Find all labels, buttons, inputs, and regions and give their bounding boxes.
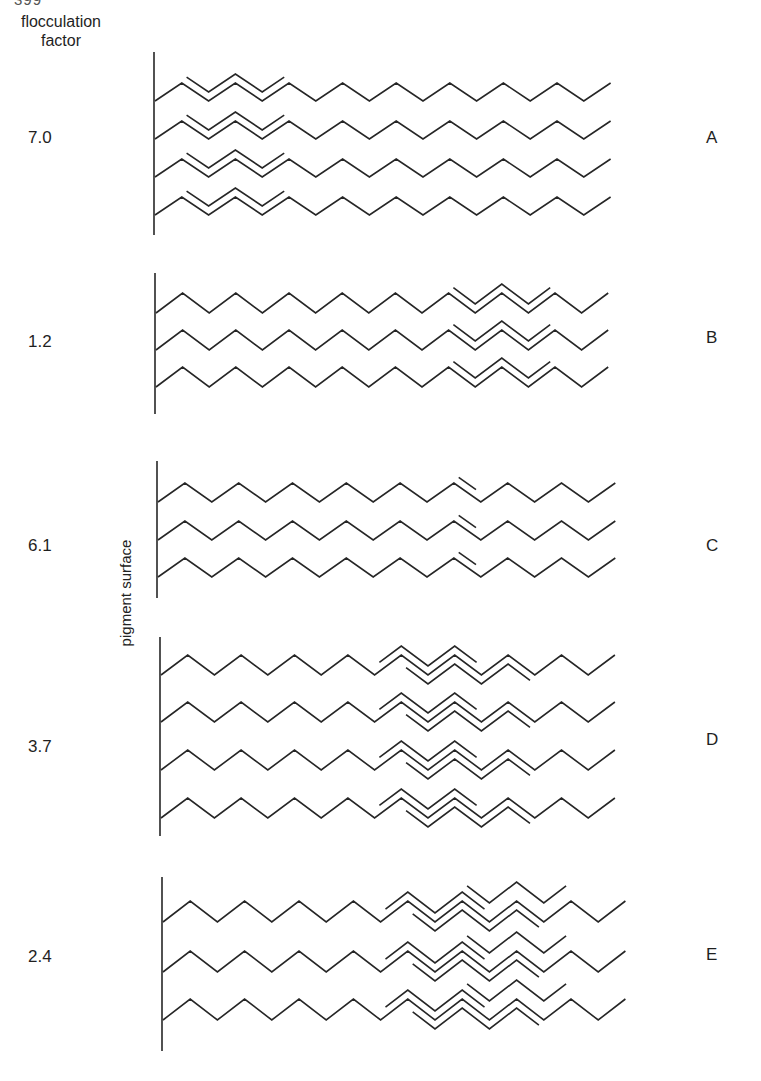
double-bond-overlay (386, 892, 485, 913)
double-bond-overlay (386, 990, 485, 1011)
panel-c-chains (157, 461, 615, 598)
hydrocarbon-chain (155, 83, 611, 101)
hydrocarbon-chain (156, 330, 608, 350)
hydrocarbon-chain (156, 293, 608, 313)
double-bond-overlay (379, 789, 476, 809)
hydrocarbon-chain (163, 951, 625, 972)
hydrocarbon-chain (163, 999, 625, 1020)
panel-b-chains (155, 273, 608, 414)
hydrocarbon-chain (155, 159, 611, 177)
double-bond-overlay (406, 711, 530, 731)
hydrocarbon-chain (161, 655, 615, 675)
hydrocarbon-chain (158, 558, 615, 577)
double-bond-overlay (413, 910, 539, 931)
hydrocarbon-chain (163, 901, 625, 922)
panel-e-chains (162, 877, 625, 1051)
double-bond-overlay (406, 664, 530, 684)
hydrocarbon-chain (156, 367, 608, 387)
double-bond-overlay (379, 693, 476, 713)
hydrocarbon-chain (161, 798, 615, 818)
molecular-chain-diagram (0, 0, 761, 1081)
double-bond-overlay (467, 932, 566, 953)
double-bond-overlay (413, 1008, 539, 1029)
hydrocarbon-chain (158, 483, 615, 502)
double-bond-overlay (467, 882, 566, 903)
double-bond-overlay (467, 980, 566, 1001)
hydrocarbon-chain (155, 121, 611, 139)
panel-a-chains (154, 52, 611, 235)
panel-d-chains (160, 637, 615, 836)
hydrocarbon-chain (161, 750, 615, 770)
double-bond-overlay (379, 646, 476, 666)
hydrocarbon-chain (155, 197, 611, 215)
double-bond-overlay (379, 741, 476, 761)
double-bond-overlay (406, 807, 530, 827)
double-bond-overlay (413, 960, 539, 981)
double-bond-overlay (386, 942, 485, 963)
hydrocarbon-chain (158, 521, 615, 540)
hydrocarbon-chain (161, 702, 615, 722)
double-bond-overlay (406, 759, 530, 779)
